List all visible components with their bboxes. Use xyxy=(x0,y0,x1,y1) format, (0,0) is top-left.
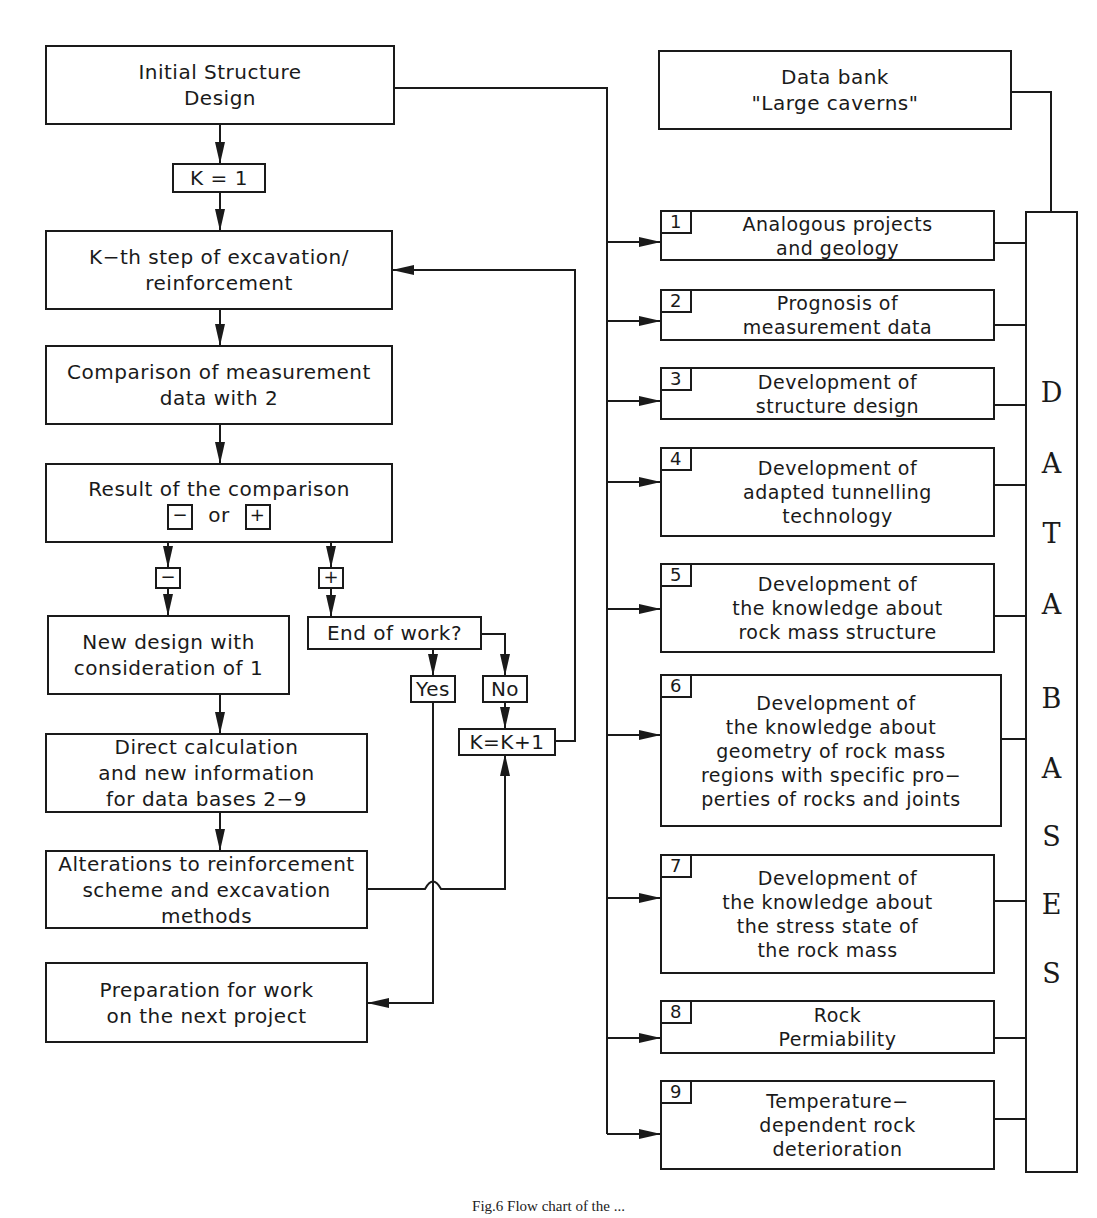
box-text: dependent rock xyxy=(739,1113,915,1137)
box-text: the knowledge about xyxy=(712,596,943,620)
box-text: K−th step of excavation/ xyxy=(89,244,349,270)
box-text: rock mass structure xyxy=(718,620,936,644)
box-text: Yes xyxy=(416,676,450,702)
plus-sign: + xyxy=(245,504,271,530)
box-text: New design with xyxy=(82,629,255,655)
box-text: End of work? xyxy=(327,620,462,646)
end-of-work-box: End of work? xyxy=(307,616,482,650)
box-text: on the next project xyxy=(106,1003,306,1029)
yes-box: Yes xyxy=(410,675,456,703)
box-text: Analogous projects xyxy=(722,212,932,236)
box-text: K=K+1 xyxy=(470,729,545,755)
direct-calculation-box: Direct calculation and new information f… xyxy=(45,733,368,813)
box-text: data with 2 xyxy=(160,385,278,411)
column-letter: D xyxy=(1027,377,1076,408)
database-number: 5 xyxy=(660,563,692,587)
database-number: 6 xyxy=(660,674,692,698)
box-text: reinforcement xyxy=(145,270,293,296)
database-1: 1 Analogous projects and geology xyxy=(660,210,995,261)
preparation-box: Preparation for work on the next project xyxy=(45,962,368,1043)
box-text: Alterations to reinforcement xyxy=(58,851,354,877)
database-number: 1 xyxy=(660,210,692,234)
database-8: 8 Rock Permiability xyxy=(660,1000,995,1054)
box-text: Data bank xyxy=(781,64,889,90)
box-text: the rock mass xyxy=(757,938,897,962)
data-bank-box: Data bank "Large caverns" xyxy=(658,50,1012,130)
database-number: 7 xyxy=(660,854,692,878)
k-increment-box: K=K+1 xyxy=(458,728,556,756)
column-letter: A xyxy=(1027,753,1076,784)
comparison-box: Comparison of measurement data with 2 xyxy=(45,345,393,425)
box-text: regions with specific pro− xyxy=(701,763,961,787)
box-text: Development of xyxy=(738,866,917,890)
box-text: the knowledge about xyxy=(722,890,933,914)
box-text: for data bases 2−9 xyxy=(106,786,307,812)
box-text: Prognosis of xyxy=(757,291,898,315)
box-text: measurement data xyxy=(723,315,932,339)
box-text: and geology xyxy=(756,236,899,260)
database-6: 6 Development of the knowledge about geo… xyxy=(660,674,1002,827)
minus-sign: − xyxy=(167,504,193,530)
database-number: 2 xyxy=(660,289,692,313)
box-text: Direct calculation xyxy=(115,734,299,760)
minus-branch-label: − xyxy=(155,567,181,589)
plus-branch-label: + xyxy=(318,567,344,589)
box-text: perties of rocks and joints xyxy=(701,787,961,811)
box-text: Initial Structure xyxy=(138,59,301,85)
box-text: and new information xyxy=(98,760,315,786)
box-text: Development of xyxy=(738,456,917,480)
column-letter: B xyxy=(1027,683,1076,714)
column-letter: S xyxy=(1027,958,1076,989)
database-3: 3 Development of structure design xyxy=(660,367,995,420)
box-text: Rock xyxy=(794,1003,861,1027)
box-text: Development of xyxy=(746,691,915,715)
box-text: methods xyxy=(161,903,252,929)
box-text: Development of xyxy=(738,370,917,394)
box-text: Permiability xyxy=(759,1027,897,1051)
k-init-box: K = 1 xyxy=(172,163,266,193)
box-text: Design xyxy=(184,85,256,111)
box-text: geometry of rock mass xyxy=(716,739,945,763)
database-2: 2 Prognosis of measurement data xyxy=(660,289,995,341)
column-letter: A xyxy=(1027,589,1076,620)
box-text: consideration of 1 xyxy=(74,655,263,681)
no-box: No xyxy=(482,675,528,703)
box-text: the knowledge about xyxy=(726,715,937,739)
result-signs: − or + xyxy=(159,502,278,530)
column-letter: S xyxy=(1027,821,1076,852)
box-text: Result of the comparison xyxy=(88,476,350,502)
or-text: or xyxy=(208,503,229,527)
new-design-box: New design with consideration of 1 xyxy=(47,615,290,695)
figure-caption: Fig.6 Flow chart of the ... xyxy=(0,1198,1097,1215)
box-text: No xyxy=(491,676,519,702)
box-text: deterioration xyxy=(753,1137,903,1161)
database-7: 7 Development of the knowledge about the… xyxy=(660,854,995,974)
column-letter: A xyxy=(1027,448,1076,479)
column-letter: T xyxy=(1027,518,1076,549)
alterations-box: Alterations to reinforcement scheme and … xyxy=(45,850,368,929)
box-text: Temperature− xyxy=(746,1089,908,1113)
column-letter: E xyxy=(1027,889,1076,920)
box-text: Comparison of measurement xyxy=(67,359,371,385)
database-number: 4 xyxy=(660,447,692,471)
database-number: 8 xyxy=(660,1000,692,1024)
database-number: 9 xyxy=(660,1080,692,1104)
box-text: scheme and excavation xyxy=(82,877,330,903)
result-box: Result of the comparison − or + xyxy=(45,463,393,543)
box-text: Preparation for work xyxy=(99,977,313,1003)
box-text: technology xyxy=(762,504,893,528)
kth-step-box: K−th step of excavation/ reinforcement xyxy=(45,230,393,310)
database-4: 4 Development of adapted tunnelling tech… xyxy=(660,447,995,537)
box-text: structure design xyxy=(736,394,919,418)
database-5: 5 Development of the knowledge about roc… xyxy=(660,563,995,653)
box-text: K = 1 xyxy=(190,165,248,191)
box-text: the stress state of xyxy=(737,914,918,938)
initial-structure-design-box: Initial Structure Design xyxy=(45,45,395,125)
box-text: "Large caverns" xyxy=(752,90,919,116)
box-text: adapted tunnelling xyxy=(723,480,932,504)
database-9: 9 Temperature− dependent rock deteriorat… xyxy=(660,1080,995,1170)
databases-column: D A T A B A S E S xyxy=(1025,211,1078,1173)
database-number: 3 xyxy=(660,367,692,391)
box-text: Development of xyxy=(738,572,917,596)
